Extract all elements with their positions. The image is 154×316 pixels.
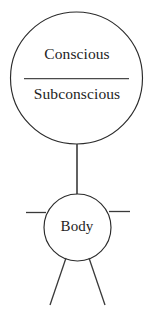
right-leg-line: [89, 258, 105, 305]
conscious-label: Conscious: [0, 45, 154, 63]
subconscious-label: Subconscious: [0, 85, 154, 103]
left-leg-line: [50, 258, 66, 305]
body-label: Body: [0, 217, 154, 235]
diagram-canvas: Conscious Subconscious Body: [0, 0, 154, 316]
